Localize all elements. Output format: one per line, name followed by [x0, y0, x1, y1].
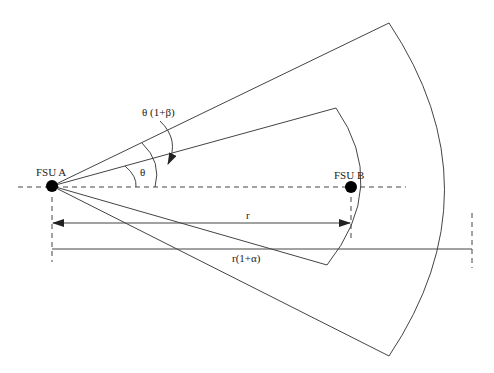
- sector-diagram: FSU A FSU B θ θ (1+β) r r(1+α): [0, 0, 494, 373]
- fsu-a-node: [46, 180, 58, 192]
- fsu-b-node: [345, 181, 357, 193]
- angle-pointer-arrow: [160, 121, 173, 164]
- fsu-a-label: FSU A: [36, 166, 66, 178]
- distance-r-label: r: [246, 209, 250, 221]
- angle-theta-beta-arc: [142, 143, 157, 187]
- fsu-b-label: FSU B: [334, 169, 364, 181]
- angle-theta-beta-label: θ (1+β): [142, 106, 175, 119]
- outer-sector: [52, 23, 445, 356]
- angle-theta-arc: [125, 166, 136, 187]
- inner-sector: [52, 108, 361, 265]
- distance-r-alpha-label: r(1+α): [232, 252, 261, 265]
- angle-theta-label: θ: [140, 166, 145, 178]
